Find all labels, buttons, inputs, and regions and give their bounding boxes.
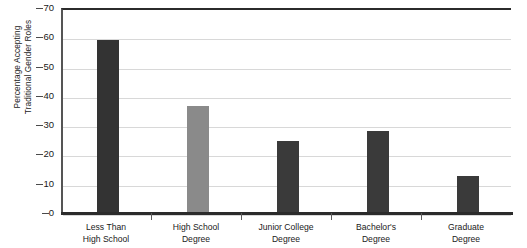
x-axis-tick-mark (241, 213, 242, 220)
x-axis-category-label-line: Degree (448, 233, 484, 245)
y-axis-tick-mark (36, 8, 43, 9)
bar (367, 131, 389, 213)
bars-layer (63, 10, 511, 213)
y-axis-tick-mark (36, 96, 43, 97)
y-axis-tick-mark (36, 184, 43, 185)
x-axis-category-label-line: Less Than (83, 221, 129, 233)
y-axis-tick-label: 60 (43, 32, 54, 42)
x-axis-category-label: High SchoolDegree (173, 221, 219, 245)
y-axis-tick-label: 20 (43, 149, 54, 159)
x-axis-category-label-line: Graduate (448, 221, 484, 233)
bar (187, 106, 209, 213)
y-axis-title-line1: Percentage Accepting (12, 0, 23, 152)
y-axis-tick-label: 40 (43, 91, 54, 101)
x-axis-category-label-line: Bachelor's (356, 221, 396, 233)
x-axis-line (61, 212, 513, 215)
x-axis-tick-mark (151, 213, 152, 220)
x-axis-category-label: Less ThanHigh School (83, 221, 129, 245)
x-axis-category-label: Bachelor'sDegree (356, 221, 396, 245)
y-axis-tick-label: 50 (43, 62, 54, 72)
x-axis-category-label-line: Degree (356, 233, 396, 245)
x-axis-category-label-line: Junior College (259, 221, 314, 233)
x-axis-category-label-line: Degree (173, 233, 219, 245)
y-axis-tick-mark (36, 67, 43, 68)
bar-chart: Percentage Accepting Traditional Gender … (0, 0, 527, 248)
y-axis-tick-mark (36, 37, 43, 38)
y-axis-tick-label: 70 (43, 3, 54, 13)
gridline (63, 215, 511, 216)
x-axis-category-label-line: High School (173, 221, 219, 233)
y-axis-tick-label: 30 (43, 120, 54, 130)
x-axis-category-label: Junior CollegeDegree (259, 221, 314, 245)
x-axis-category-label-line: Degree (259, 233, 314, 245)
y-axis-tick-label: 10 (43, 179, 54, 189)
x-axis-category-label-line: High School (83, 233, 129, 245)
x-axis-tick-mark (421, 213, 422, 220)
bar (97, 40, 119, 213)
x-axis-category-labels: Less ThanHigh SchoolHigh SchoolDegreeJun… (61, 221, 511, 248)
bar (457, 176, 479, 213)
x-axis-tick-mark (331, 213, 332, 220)
y-axis-tick-label: 0 (49, 208, 54, 218)
y-axis-tick-mark (36, 125, 43, 126)
plot-area (61, 8, 511, 213)
y-axis-tick-mark (42, 213, 49, 214)
x-axis-category-label: GraduateDegree (448, 221, 484, 245)
y-axis-tick-labels: 010203040506070 (28, 0, 54, 248)
bar (277, 141, 299, 213)
y-axis-tick-mark (36, 154, 43, 155)
